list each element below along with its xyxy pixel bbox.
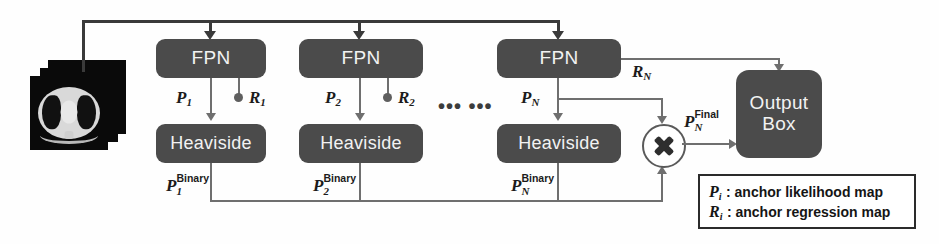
- heaviside-box-1[interactable]: Heaviside: [156, 124, 266, 163]
- legend-text-r: : anchor regression map: [727, 204, 890, 220]
- ct-slice-front: [30, 76, 108, 150]
- p2-arrow: [355, 113, 365, 121]
- input-riser: [82, 20, 85, 72]
- ct-lung-right: [77, 95, 96, 129]
- label-p2-binary: PBinary2: [313, 176, 357, 196]
- rn-line: [621, 58, 779, 60]
- pn-branch-drop: [661, 98, 663, 118]
- ct-mediastinum: [61, 100, 78, 123]
- legend-text-p: : anchor likelihood map: [726, 184, 883, 200]
- ellipsis-columns: ••• •••: [438, 95, 493, 118]
- heaviside-box-n[interactable]: Heaviside: [497, 124, 621, 163]
- fpn-box-2[interactable]: FPN: [299, 39, 423, 78]
- label-p1: P1: [176, 88, 192, 108]
- ct-spine: [65, 131, 74, 139]
- label-r1: R1: [249, 88, 266, 108]
- pn-branch-arrow: [657, 116, 667, 124]
- label-p2: P2: [325, 88, 341, 108]
- pn-arrow: [553, 113, 563, 121]
- output-box-line1: Output: [750, 93, 809, 114]
- p2-binary-line: [359, 163, 361, 201]
- multiply-node[interactable]: [642, 124, 686, 168]
- pn-branch-line: [557, 98, 663, 100]
- fpn-box-n[interactable]: FPN: [497, 39, 621, 78]
- label-pn-final: PFinalN: [684, 112, 728, 132]
- pn-binary-line: [557, 163, 559, 201]
- legend-row-r: Ri : anchor regression map: [709, 201, 905, 221]
- legend-row-p: Pi : anchor likelihood map: [709, 181, 905, 201]
- label-pn-binary: PBinaryN: [511, 176, 555, 196]
- label-p1-binary: PBinary1: [166, 176, 210, 196]
- p1-arrow: [206, 113, 216, 121]
- label-rn: RN: [632, 62, 651, 82]
- fpn-box-1[interactable]: FPN: [156, 39, 266, 78]
- r2-dot: [383, 93, 392, 102]
- legend-box: Pi : anchor likelihood map Ri : anchor r…: [698, 174, 916, 229]
- input-bus: [82, 20, 559, 23]
- legend-symbol-p: Pi: [709, 183, 722, 200]
- label-pn: PN: [521, 88, 539, 108]
- pn-line: [557, 78, 559, 114]
- diagram-canvas: FPN P1 R1 Heaviside PBinary1 FPN P2 R2 H…: [0, 0, 939, 244]
- binary-bus-riser: [661, 172, 663, 200]
- p2-line: [359, 78, 361, 114]
- legend-symbol-r: Ri: [709, 203, 722, 220]
- p1-line: [210, 78, 212, 114]
- binary-bus: [210, 200, 663, 202]
- label-r2: R2: [398, 88, 415, 108]
- heaviside-box-2[interactable]: Heaviside: [299, 124, 423, 163]
- final-line: [682, 143, 732, 145]
- ct-lung-left: [42, 95, 61, 129]
- r1-dot: [234, 93, 243, 102]
- output-box[interactable]: Output Box: [736, 70, 822, 158]
- output-box-line2: Box: [762, 114, 796, 135]
- ct-slice-stack: [30, 60, 130, 152]
